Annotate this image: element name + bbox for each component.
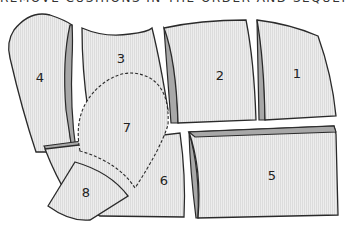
cushion-diagram: 4 3 2 1 5 6 7 8 <box>0 0 345 232</box>
cushion-piece-1: 1 <box>257 20 336 120</box>
piece-label-7: 7 <box>123 120 131 135</box>
cushion-piece-2: 2 <box>164 20 256 123</box>
piece-label-8: 8 <box>82 185 90 200</box>
cushion-piece-5: 5 <box>189 126 338 218</box>
piece-label-6: 6 <box>160 173 168 188</box>
piece-label-2: 2 <box>216 68 224 83</box>
piece-label-1: 1 <box>293 66 301 81</box>
piece-label-3: 3 <box>117 51 125 66</box>
piece-label-4: 4 <box>36 70 44 85</box>
cushion-piece-4: 4 <box>9 14 76 152</box>
piece-label-5: 5 <box>268 168 276 183</box>
